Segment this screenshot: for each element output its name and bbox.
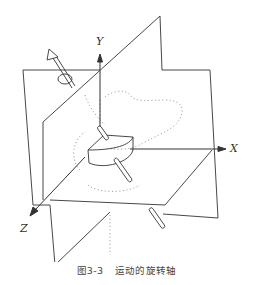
figure-title: 运动的旋转轴 <box>115 265 177 276</box>
vertical-plane-front <box>23 70 100 205</box>
z-axis-label: Z <box>20 222 28 235</box>
rotation-axis-diagram <box>0 0 253 262</box>
x-axis-label: X <box>230 142 238 155</box>
figure-caption: 图3-3 运动的旋转轴 <box>0 263 253 277</box>
y-axis-arrowhead <box>98 54 103 62</box>
rod-lower <box>148 207 165 229</box>
vertical-plane-back <box>43 16 162 122</box>
vertical-plane-lower <box>50 205 110 262</box>
x-axis-arrowhead <box>218 147 226 152</box>
figure-number: 图3-3 <box>77 265 104 276</box>
z-axis <box>35 157 85 210</box>
y-axis-label: Y <box>96 35 103 48</box>
rotation-axis-arrowhead <box>47 49 58 60</box>
rotation-circle <box>58 74 72 84</box>
half-cylinder-object <box>88 135 133 150</box>
